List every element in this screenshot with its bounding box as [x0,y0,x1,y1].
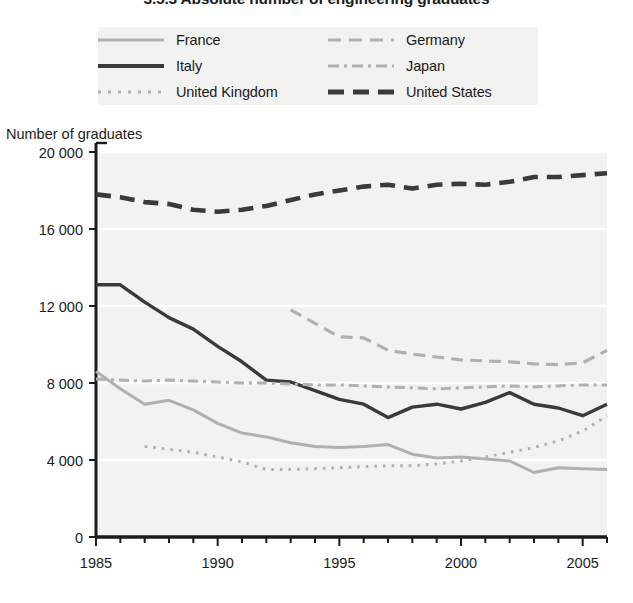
y-axis-tick-label: 12 000 [39,299,83,315]
x-axis-tick-label: 2000 [445,555,477,571]
y-axis-tick-label: 20 000 [39,145,83,161]
y-axis-tick-label: 8 000 [47,376,83,392]
x-axis-tick-label: 1985 [80,555,112,571]
x-axis-tick-label: 1995 [323,555,355,571]
x-axis-tick-label: 1990 [202,555,234,571]
chart-plot-area: 04 0008 00012 00016 00020 00019851990199… [0,0,633,603]
y-axis-tick-label: 0 [75,530,83,546]
y-axis-tick-label: 4 000 [47,453,83,469]
x-axis-tick-label: 2005 [567,555,599,571]
y-axis-tick-label: 16 000 [39,222,83,238]
plot-background [96,152,607,537]
